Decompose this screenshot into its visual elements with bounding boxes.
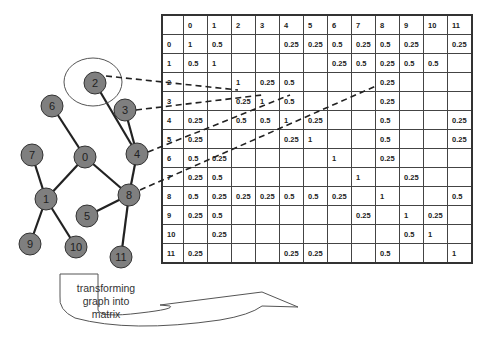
matrix-cell [400,187,424,206]
matrix-cell: 0.5 [448,187,473,206]
column-header: 8 [376,15,400,35]
matrix-cell [424,168,448,187]
row-header: 9 [162,206,184,225]
matrix-cell: 0.5 [376,111,400,130]
matrix-cell: 0.5 [304,187,328,206]
node-11: 11 [110,246,132,268]
matrix-cell [232,168,256,187]
matrix-cell [352,73,376,92]
matrix-cell [304,149,328,168]
matrix-cell: 0.5 [400,225,424,244]
matrix-cell: 0.5 [208,35,232,54]
matrix-header-row: 01234567891011 [162,15,472,35]
matrix-cell [328,225,352,244]
matrix-cell [256,149,280,168]
matrix-cell: 0.5 [280,92,304,111]
node-0: 0 [74,146,96,168]
matrix-cell: 0.5 [232,111,256,130]
matrix-cell [328,130,352,149]
matrix-cell: 0.25 [232,187,256,206]
matrix-cell [448,168,473,187]
matrix-row: 50.250.2510.50.25 [162,130,472,149]
row-header: 11 [162,244,184,264]
column-header: 5 [304,15,328,35]
matrix-cell: 0.25 [280,130,304,149]
matrix-cell [304,54,328,73]
svg-text:9: 9 [27,238,33,250]
row-header: 2 [162,73,184,92]
svg-text:1: 1 [43,193,49,205]
matrix-cell: 1 [280,111,304,130]
matrix-cell: 0.5 [352,54,376,73]
matrix-cell: 0.25 [184,168,208,187]
column-header: 6 [328,15,352,35]
matrix-row: 210.250.50.25 [162,73,472,92]
matrix-cell [232,244,256,264]
node-3: 3 [114,99,136,121]
matrix-cell [208,244,232,264]
matrix-cell [424,35,448,54]
matrix-cell [208,73,232,92]
matrix-cell: 0.25 [400,168,424,187]
svg-text:11: 11 [115,251,126,263]
matrix-row: 70.250.510.25 [162,168,472,187]
matrix-cell [280,149,304,168]
matrix-cell: 0.5 [208,168,232,187]
matrix-cell: 0.25 [304,35,328,54]
matrix-cell: 0.5 [280,187,304,206]
matrix-cell [448,92,473,111]
column-header: 2 [232,15,256,35]
matrix-cell: 0.25 [184,206,208,225]
matrix-cell [256,130,280,149]
matrix-cell [352,111,376,130]
column-header: 9 [400,15,424,35]
matrix-row: 60.50.2510.25 [162,149,472,168]
matrix-cell: 0.25 [448,111,473,130]
matrix-cell: 0.5 [328,35,352,54]
node-6: 6 [41,95,63,117]
matrix-cell [424,73,448,92]
matrix-cell [304,206,328,225]
matrix-cell [304,73,328,92]
matrix-cell [208,130,232,149]
matrix-cell [304,92,328,111]
matrix-cell: 0.25 [280,35,304,54]
matrix-cell [376,168,400,187]
matrix-cell: 0.25 [208,187,232,206]
node-10: 10 [65,236,87,258]
matrix-cell [352,187,376,206]
node-1: 1 [35,188,57,210]
node-9: 9 [19,233,41,255]
matrix-cell [256,225,280,244]
row-header: 4 [162,111,184,130]
matrix-cell [184,92,208,111]
matrix-cell: 0.25 [352,35,376,54]
caption-line-1: transforming [60,282,152,295]
node-8: 8 [118,184,140,206]
row-header: 6 [162,149,184,168]
matrix-cell [232,54,256,73]
svg-text:0: 0 [82,151,88,163]
matrix-cell: 0.25 [208,225,232,244]
matrix-cell: 0.25 [376,73,400,92]
matrix-cell: 0.5 [400,54,424,73]
row-header: 7 [162,168,184,187]
matrix-cell: 0.25 [424,206,448,225]
matrix-cell [328,73,352,92]
matrix-cell [400,111,424,130]
matrix-cell: 0.5 [280,73,304,92]
matrix-cell [448,54,473,73]
matrix-cell [376,225,400,244]
matrix-cell: 1 [448,244,473,264]
matrix-cell [448,225,473,244]
matrix-cell [400,149,424,168]
matrix-cell: 0.5 [376,35,400,54]
matrix-cell: 0.25 [208,149,232,168]
matrix-row: 40.250.50.510.250.50.25 [162,111,472,130]
node-4: 4 [126,143,148,165]
matrix-row: 80.50.250.250.250.50.50.2510.5 [162,187,472,206]
column-header: 7 [352,15,376,35]
matrix-cell: 0.5 [184,54,208,73]
svg-text:8: 8 [126,189,132,201]
matrix-cell: 0.25 [448,130,473,149]
